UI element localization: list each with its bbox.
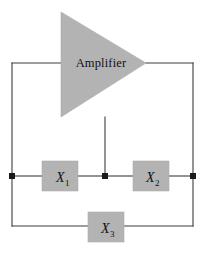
circuit-diagram-figure: Amplifier X 1 X 2 X 3 — [0, 0, 204, 255]
junction-dot-middle — [102, 173, 108, 179]
junction-dot-left — [9, 173, 15, 179]
component-x2-label: X — [145, 170, 155, 185]
junction-dot-right — [190, 173, 196, 179]
component-x3-label: X — [100, 221, 110, 236]
component-x1-label: X — [55, 170, 65, 185]
amplifier-label: Amplifier — [76, 56, 127, 70]
diagram-canvas: Amplifier X 1 X 2 X 3 — [0, 0, 204, 255]
component-x2-subscript: 2 — [155, 178, 160, 188]
component-x3-subscript: 3 — [110, 229, 115, 239]
component-x1-subscript: 1 — [65, 178, 70, 188]
